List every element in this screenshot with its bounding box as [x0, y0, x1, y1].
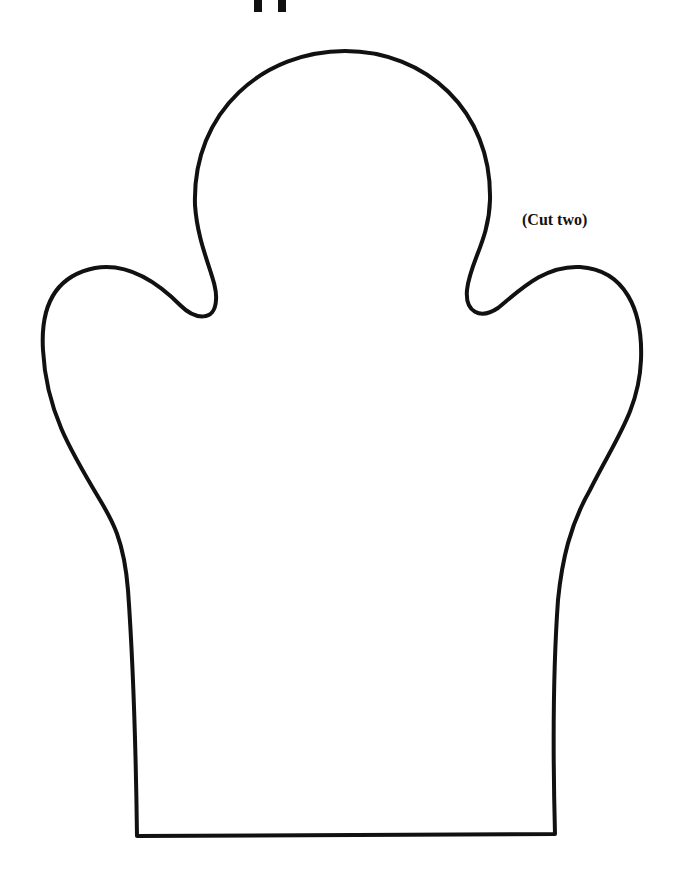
cut-instruction-label: (Cut two): [522, 211, 587, 229]
puppet-outline: [0, 0, 683, 874]
puppet-outline-path: [43, 51, 641, 836]
